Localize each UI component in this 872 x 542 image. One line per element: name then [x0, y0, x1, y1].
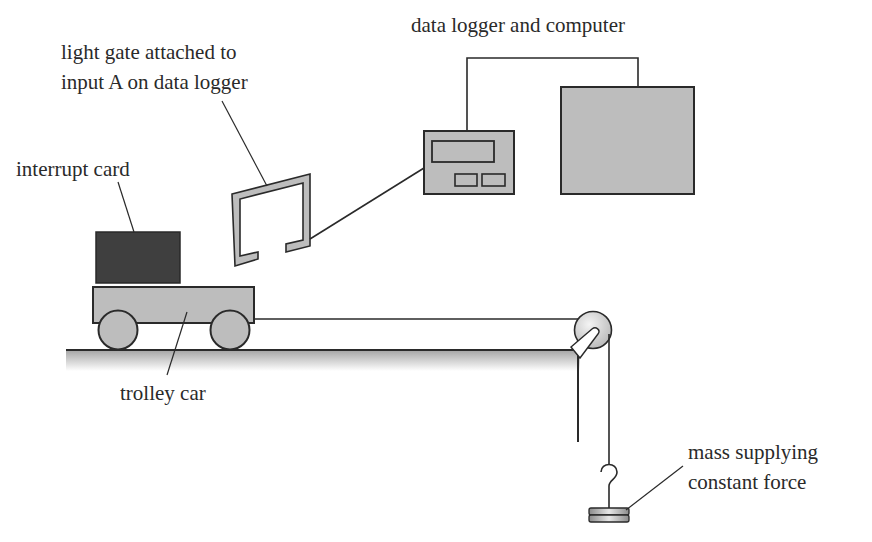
label-mass-line2: constant force: [688, 470, 806, 494]
trolley-wheel-right: [211, 311, 250, 350]
light-gate-leader-line: [222, 101, 267, 186]
logger-display: [432, 141, 494, 162]
label-data-logger-computer: data logger and computer: [411, 13, 625, 37]
trolley-wheel-left: [99, 311, 138, 350]
hook-icon: [601, 465, 617, 509]
interrupt-card: [96, 232, 180, 283]
mass-leader-line: [626, 466, 683, 510]
light-gate: [232, 174, 310, 266]
label-interrupt-card: interrupt card: [16, 157, 130, 181]
hanging-mass: [589, 508, 629, 522]
label-light-gate-line2: input A on data logger: [61, 70, 248, 94]
light-gate-cable: [310, 168, 424, 239]
label-mass-line1: mass supplying: [688, 440, 818, 464]
logger-button-1: [455, 174, 477, 186]
data-logger: [424, 131, 514, 194]
trolley-car: [93, 287, 254, 350]
interrupt-card-leader-line: [118, 182, 134, 232]
label-trolley-car: trolley car: [120, 381, 206, 405]
computer: [561, 87, 694, 194]
label-light-gate-line1: light gate attached to: [61, 40, 237, 64]
logger-button-2: [482, 174, 505, 186]
